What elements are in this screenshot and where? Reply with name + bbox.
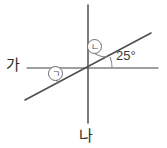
diagram-canvas	[0, 0, 167, 148]
horizontal-line-label: 가	[6, 57, 20, 72]
angle-marker-giyeok: ㄱ	[48, 66, 63, 81]
known-angle-label: 25°	[116, 49, 136, 62]
angle-marker-nieun: ㄴ	[87, 39, 102, 54]
vertical-line-label: 나	[79, 128, 93, 143]
angle-25-arc	[110, 57, 112, 68]
geometry-diagram: 가 나 25° ㄱ ㄴ	[0, 0, 167, 148]
